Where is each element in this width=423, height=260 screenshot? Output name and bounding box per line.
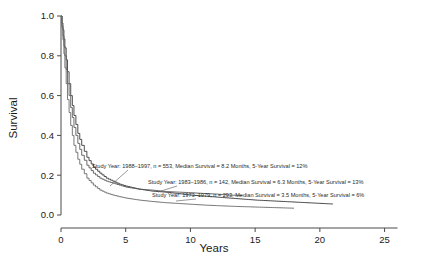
x-tick-label: 10	[185, 234, 196, 245]
annotation-1988-1997: Study Year: 1988–1997, n = 553, Median S…	[92, 163, 307, 169]
y-tick-label: 0.8	[41, 50, 54, 61]
y-axis: 0.00.20.40.60.81.0	[41, 10, 61, 220]
x-axis-title: Years	[200, 242, 229, 254]
x-tick-label: 0	[58, 234, 63, 245]
y-tick-label: 0.6	[41, 90, 54, 101]
annotation-1983-1986: Study Year: 1983–1986, n = 142, Median S…	[148, 179, 363, 185]
x-tick-label: 25	[379, 234, 390, 245]
y-tick-group: 0.00.20.40.60.81.0	[41, 10, 61, 220]
survival-chart: 0.00.20.40.60.81.0 0510152025 Study Year…	[0, 0, 423, 260]
y-tick-label: 0.4	[41, 130, 54, 141]
chart-svg: 0.00.20.40.60.81.0 0510152025 Study Year…	[0, 0, 423, 260]
y-tick-label: 0.0	[41, 209, 54, 220]
survival-curve-0	[61, 16, 333, 204]
x-tick-label: 5	[123, 234, 128, 245]
curve-annotations: Study Year: 1988–1997, n = 553, Median S…	[92, 163, 364, 198]
y-tick-label: 0.2	[41, 170, 54, 181]
y-axis-title: Survival	[7, 98, 19, 139]
annotation-1973-1979: Study Year: 1973–1979, n = 293, Median S…	[152, 192, 364, 198]
y-tick-label: 1.0	[41, 10, 54, 21]
leader-line-2	[176, 199, 196, 201]
x-tick-label: 15	[250, 234, 261, 245]
x-tick-label: 20	[315, 234, 326, 245]
